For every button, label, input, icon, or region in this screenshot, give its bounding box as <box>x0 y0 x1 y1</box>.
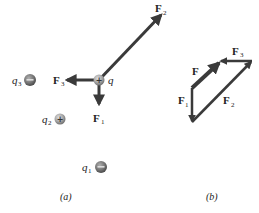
coulomb-force-diagram: + q q 3 + q 2 q 1 F 2 F 3 F 1 (a) <box>0 0 259 213</box>
vector-f2 <box>192 62 251 122</box>
force-arrow-f2 <box>99 15 161 80</box>
svg-text:F: F <box>178 94 185 106</box>
svg-text:3: 3 <box>18 80 22 88</box>
force-label-f3: F 3 <box>53 74 65 88</box>
svg-text:F: F <box>223 94 230 106</box>
figure-b-vector-sum <box>192 61 252 122</box>
charge-q3: q 3 <box>12 74 36 88</box>
force-label-f2: F 2 <box>155 2 167 17</box>
svg-text:1: 1 <box>101 118 105 126</box>
svg-text:F: F <box>53 74 60 86</box>
caption-b: (b) <box>206 191 218 203</box>
svg-text:F: F <box>93 112 100 124</box>
svg-text:F: F <box>192 65 199 77</box>
vector-label-f3: F 3 <box>232 45 244 59</box>
svg-text:1: 1 <box>88 167 92 175</box>
vector-label-f1: F 1 <box>178 94 189 109</box>
svg-text:1: 1 <box>185 101 189 109</box>
vector-label-f2: F 2 <box>223 94 235 109</box>
svg-text:2: 2 <box>231 101 235 109</box>
svg-text:3: 3 <box>61 80 65 88</box>
charge-q1: q 1 <box>82 161 107 175</box>
force-label-f1: F 1 <box>93 112 105 126</box>
svg-text:+: + <box>57 115 64 124</box>
svg-text:F: F <box>232 45 239 57</box>
svg-text:2: 2 <box>48 119 52 127</box>
svg-text:3: 3 <box>240 51 244 59</box>
svg-text:F: F <box>155 2 162 14</box>
svg-text:+: + <box>96 76 103 85</box>
charge-q2: + q 2 <box>42 113 66 127</box>
figure-a-forces <box>67 15 161 104</box>
vector-label-f: F <box>192 65 199 77</box>
caption-a: (a) <box>60 191 72 203</box>
charge-label-q: q <box>108 74 114 86</box>
svg-text:2: 2 <box>163 9 167 17</box>
